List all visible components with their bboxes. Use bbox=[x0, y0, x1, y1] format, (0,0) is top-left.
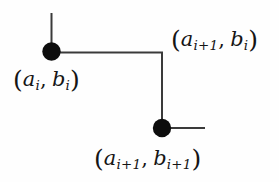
close-paren: ) bbox=[191, 144, 201, 173]
close-paren: ) bbox=[70, 65, 80, 94]
node-lower-right bbox=[153, 119, 171, 137]
comma-separator: , bbox=[141, 146, 149, 170]
open-paren: ( bbox=[171, 25, 181, 54]
close-paren: ) bbox=[248, 25, 258, 54]
open-paren: ( bbox=[94, 144, 104, 173]
a-variable: a bbox=[104, 146, 117, 170]
open-paren: ( bbox=[13, 65, 23, 94]
a-variable: a bbox=[181, 27, 194, 51]
b-variable: b bbox=[52, 67, 66, 91]
point-label-left: (ai, bi) bbox=[13, 67, 80, 92]
node-upper-left bbox=[42, 42, 60, 60]
b-subscript: i+1 bbox=[167, 157, 192, 172]
comma-separator: , bbox=[40, 67, 48, 91]
point-label-top-right: (ai+1, bi) bbox=[171, 27, 258, 52]
point-label-bottom: (ai+1, bi+1) bbox=[94, 146, 201, 171]
a-subscript: i+1 bbox=[116, 157, 141, 172]
a-subscript: i+1 bbox=[193, 38, 218, 53]
a-variable: a bbox=[23, 67, 36, 91]
comma-separator: , bbox=[218, 27, 226, 51]
b-variable: b bbox=[153, 146, 167, 170]
figure-canvas: (ai+1, bi) (ai, bi) (ai+1, bi+1) bbox=[0, 0, 279, 182]
b-variable: b bbox=[230, 27, 244, 51]
